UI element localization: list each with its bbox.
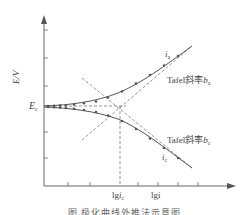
lgic-label-sub: c [122,195,125,201]
cathodic-slope-sub: c [208,140,211,146]
figure-caption: 图 极化曲线外推法示意图 [0,206,249,215]
extrapolation-lines [44,46,192,186]
cathodic-current-label: ic [162,153,167,163]
cathodic-slope-label: Tafel斜率bc [167,136,211,146]
y-axis-label-text: E/V [11,71,21,85]
x-axis [44,182,236,189]
anodic-current-sub: a [168,54,171,60]
cathodic-current-sub: c [165,157,168,163]
y-axis-label: E/V [12,71,21,85]
x-axis-label-text: lgi [151,190,161,200]
ec-label-sub: c [35,106,38,112]
x-axis-label: lgi [151,191,161,200]
anodic-slope-label: Tafel斜率ba [167,76,211,86]
anodic-slope-sub: a [208,80,211,86]
ec-label: Ec [29,101,38,112]
anodic-current-label: ia [165,50,170,60]
y-axis [41,15,48,186]
cathodic-slope-text: Tafel斜率 [167,135,203,145]
anodic-slope-text: Tafel斜率 [167,75,203,85]
lgic-label-main: lg [112,190,119,200]
lgic-label: lgic [112,191,124,201]
